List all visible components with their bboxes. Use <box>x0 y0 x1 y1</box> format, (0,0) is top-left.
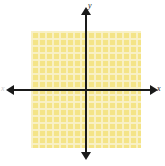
x-axis-label-left: x <box>1 85 5 93</box>
y-axis-arrow-down-icon <box>81 152 91 160</box>
x-axis-arrow-left-icon <box>6 85 14 95</box>
y-axis-label: y <box>88 2 92 10</box>
coordinate-plane-figure: y x x <box>0 0 165 166</box>
x-axis-label: x <box>157 85 161 93</box>
x-axis <box>10 89 156 91</box>
y-axis <box>85 12 87 158</box>
